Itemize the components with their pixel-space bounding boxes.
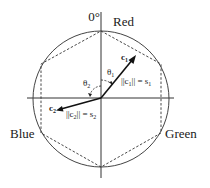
theta2-arrowhead	[88, 93, 92, 97]
vector-c2	[61, 98, 101, 109]
c1-norm-label: ||c1|| = s1	[121, 76, 151, 87]
theta1-label: θ1	[107, 67, 114, 78]
theta2-arc	[90, 86, 101, 95]
c2-label: c2	[49, 103, 56, 114]
green-label: Green	[165, 126, 197, 141]
vector-c2-arrowhead	[56, 106, 64, 112]
c1-label: c1	[121, 52, 128, 63]
zero-degree-label: 0°	[88, 9, 100, 24]
red-label: Red	[113, 14, 134, 29]
c2-norm-label: ||c2|| = s2	[66, 109, 96, 120]
color-hexagon-diagram: 0° Red Blue Green c1 θ1 θ2 ||c1|| = s1 c…	[0, 0, 210, 188]
theta2-label: θ2	[83, 78, 90, 89]
blue-label: Blue	[10, 126, 35, 141]
